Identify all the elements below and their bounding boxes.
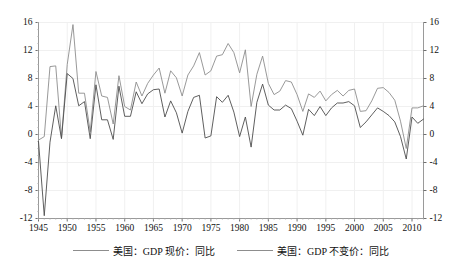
x-axis-tick: 2010 <box>392 224 432 234</box>
legend-swatch-nominal <box>73 250 109 251</box>
y-axis-left-tick: 16 <box>0 18 33 28</box>
y-axis-right-tick: 0 <box>430 130 435 140</box>
y-axis-right-tick: -8 <box>430 186 438 196</box>
y-axis-right-tick: -4 <box>430 158 438 168</box>
y-axis-left-tick: 0 <box>0 130 33 140</box>
legend-label-real: 美国：GDP 不变价：同比 <box>277 243 389 258</box>
y-axis-right-tick: -12 <box>430 214 443 224</box>
legend-item-nominal[interactable]: 美国：GDP 现价：同比 <box>73 243 215 258</box>
legend-item-real[interactable]: 美国：GDP 不变价：同比 <box>237 243 389 258</box>
legend-swatch-real <box>237 250 273 251</box>
y-axis-left-tick: -12 <box>0 214 33 224</box>
y-axis-left-tick: -8 <box>0 186 33 196</box>
grid-lines <box>39 23 424 219</box>
y-axis-left-tick: 8 <box>0 74 33 84</box>
y-axis-right-tick: 12 <box>430 46 440 56</box>
y-axis-left-tick: -4 <box>0 158 33 168</box>
chart-container: 1612840-4-8-12 1612840-4-8-12 1945195019… <box>0 0 462 264</box>
axis-ticks <box>36 23 427 222</box>
y-axis-right-tick: 4 <box>430 102 435 112</box>
y-axis-right-tick: 16 <box>430 18 440 28</box>
y-axis-right-tick: 8 <box>430 74 435 84</box>
y-axis-left-tick: 4 <box>0 102 33 112</box>
y-axis-left-tick: 12 <box>0 46 33 56</box>
legend-label-nominal: 美国：GDP 现价：同比 <box>113 243 215 258</box>
chart-legend: 美国：GDP 现价：同比 美国：GDP 不变价：同比 <box>0 243 462 258</box>
